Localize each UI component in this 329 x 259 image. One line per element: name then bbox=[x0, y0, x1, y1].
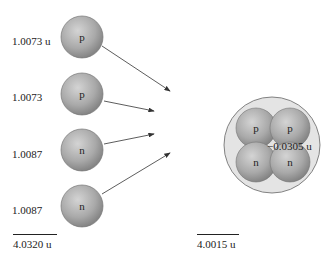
separate-total-mass: 4.0320 u bbox=[13, 234, 57, 250]
arrow-2 bbox=[104, 101, 154, 111]
svg-text:n: n bbox=[79, 200, 85, 212]
arrow-4 bbox=[102, 153, 170, 194]
arrow-3 bbox=[104, 134, 154, 144]
particle-proton-2: p bbox=[61, 73, 103, 115]
mass-label-neutron-1: 1.0087 bbox=[12, 148, 42, 160]
svg-text:p: p bbox=[79, 88, 85, 100]
nucleus-neutron-1: n bbox=[253, 156, 259, 168]
svg-text:p: p bbox=[79, 31, 85, 43]
mass-defect-label: −0.0305 u bbox=[267, 140, 312, 152]
mass-label-proton-2: 1.0073 bbox=[12, 91, 42, 103]
particle-neutron-1: n bbox=[61, 129, 103, 171]
nucleus-proton-2: p bbox=[287, 122, 293, 134]
mass-label-proton-1: 1.0073 u bbox=[12, 35, 51, 47]
particle-neutron-2: n bbox=[61, 185, 103, 227]
particle-proton-1: p bbox=[61, 16, 103, 58]
nucleus-total-mass: 4.0015 u bbox=[197, 234, 239, 250]
nucleus-neutron-2: n bbox=[287, 156, 293, 168]
nucleus-proton-1: p bbox=[253, 122, 259, 134]
svg-text:n: n bbox=[79, 144, 85, 156]
mass-label-neutron-2: 1.0087 bbox=[12, 204, 42, 216]
arrow-1 bbox=[102, 46, 170, 91]
